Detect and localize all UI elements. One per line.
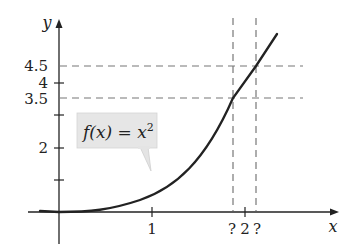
x-label-2: 2	[240, 220, 250, 238]
curve-f-x-squared	[40, 34, 277, 212]
y-axis-arrow-icon	[56, 19, 63, 28]
x-axis-label: x	[328, 217, 337, 236]
y-label-2: 2	[38, 139, 48, 157]
y-axis-label: y	[41, 13, 52, 32]
function-callout: f(x) = x2	[77, 113, 157, 171]
chart-canvas: f(x) = x2 4.5 4 3.5 2 1 ? 2 ? x y	[0, 0, 353, 252]
x-label-1: 1	[147, 220, 157, 238]
callout-function-label: f(x) = x	[81, 122, 147, 142]
callout-exponent: 2	[147, 121, 154, 134]
y-label-4.5: 4.5	[24, 57, 48, 75]
x-label-unknown-right: ?	[253, 220, 261, 238]
x-label-unknown-left: ?	[228, 220, 236, 238]
callout-tail	[140, 147, 151, 171]
svg-text:f(x) = x2: f(x) = x2	[81, 121, 154, 142]
y-label-3.5: 3.5	[24, 90, 48, 108]
x-axis-arrow-icon	[330, 209, 339, 216]
